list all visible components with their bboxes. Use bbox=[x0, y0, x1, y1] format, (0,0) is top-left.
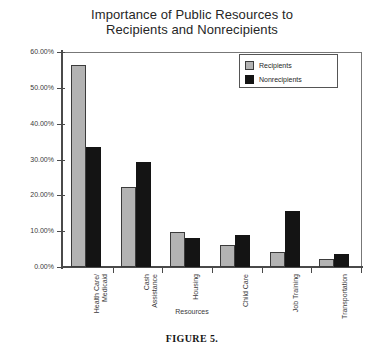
bar-group bbox=[170, 53, 200, 267]
legend-label-nonrecipients: Nonrecipients bbox=[259, 76, 302, 83]
y-axis-tick-label: 20.00% bbox=[6, 191, 54, 198]
x-axis-tick bbox=[262, 268, 263, 273]
legend-label-recipients: Recipients bbox=[259, 62, 292, 69]
bar-recipients bbox=[170, 232, 185, 267]
legend-swatch-nonrecipients-icon bbox=[245, 75, 254, 84]
y-axis-tick bbox=[57, 267, 65, 268]
bar-recipients bbox=[319, 259, 334, 267]
bar-group bbox=[71, 53, 101, 267]
bar-nonrecipients bbox=[334, 254, 349, 267]
legend-swatch-recipients-icon bbox=[245, 61, 254, 70]
figure-caption: FIGURE 5. bbox=[0, 333, 384, 344]
bar-recipients bbox=[270, 252, 285, 267]
chart-title: Importance of Public Resources to Recipi… bbox=[0, 7, 384, 37]
y-axis-tick-label: 0.00% bbox=[6, 263, 54, 270]
bar-group bbox=[121, 53, 151, 267]
chart-title-line-2: Recipients and Nonrecipients bbox=[0, 22, 384, 37]
chart-title-line-1: Importance of Public Resources to bbox=[0, 7, 384, 22]
x-axis-title: Resources bbox=[0, 308, 384, 315]
bar-nonrecipients bbox=[86, 147, 101, 267]
x-axis-tick bbox=[162, 268, 163, 273]
bar-nonrecipients bbox=[285, 211, 300, 267]
bar-recipients bbox=[220, 245, 235, 267]
bar-nonrecipients bbox=[136, 162, 151, 267]
y-axis-tick-label: 30.00% bbox=[6, 156, 54, 163]
x-axis-tick bbox=[361, 268, 362, 273]
bar-nonrecipients bbox=[185, 238, 200, 267]
bar-recipients bbox=[71, 65, 86, 267]
y-axis-tick-label: 60.00% bbox=[6, 48, 54, 55]
legend-item-recipients: Recipients bbox=[245, 59, 337, 72]
x-axis-tick bbox=[113, 268, 114, 273]
x-axis-label: Job Training bbox=[292, 274, 300, 312]
x-axis-label: CashAssistance bbox=[143, 274, 159, 308]
x-axis-label: Child Care bbox=[242, 274, 250, 307]
x-axis-tick bbox=[311, 268, 312, 273]
x-axis-label: Housing bbox=[192, 274, 200, 300]
bar-nonrecipients bbox=[235, 235, 250, 267]
y-axis-tick-label: 40.00% bbox=[6, 120, 54, 127]
y-axis-tick-label: 50.00% bbox=[6, 84, 54, 91]
y-axis-tick-label: 10.00% bbox=[6, 227, 54, 234]
legend: Recipients Nonrecipients bbox=[239, 54, 338, 88]
bar-recipients bbox=[121, 187, 136, 267]
x-axis-tick bbox=[212, 268, 213, 273]
legend-item-nonrecipients: Nonrecipients bbox=[245, 73, 337, 86]
